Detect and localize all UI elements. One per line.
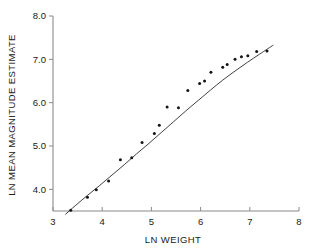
- data-point: [119, 158, 122, 161]
- data-point-group: [69, 50, 268, 212]
- data-point: [95, 188, 98, 191]
- y-axis-tick-labels: 4.05.06.07.08.0: [33, 10, 46, 194]
- data-point: [141, 141, 144, 144]
- data-point: [86, 196, 89, 199]
- x-tick-label: 5: [149, 216, 154, 227]
- x-axis-group: 345678: [50, 207, 301, 227]
- data-point: [234, 58, 237, 61]
- data-point: [69, 209, 72, 212]
- data-point: [203, 80, 206, 83]
- data-point: [209, 71, 212, 74]
- x-axis-ticks: [53, 207, 299, 211]
- y-axis-ticks: [49, 16, 53, 189]
- x-tick-label: 7: [247, 216, 252, 227]
- data-point: [266, 50, 269, 53]
- chart-canvas: 4.05.06.07.08.0 345678 LN WEIGHT LN MEAN…: [0, 0, 311, 250]
- data-point: [130, 156, 133, 159]
- y-tick-label: 7.0: [33, 54, 46, 65]
- data-point: [198, 82, 201, 85]
- y-tick-label: 4.0: [33, 184, 46, 195]
- data-point: [177, 106, 180, 109]
- y-axis-group: 4.05.06.07.08.0: [33, 10, 53, 211]
- data-point: [186, 89, 189, 92]
- data-point: [246, 54, 249, 57]
- data-point: [226, 63, 229, 66]
- y-axis-title: LN MEAN MAGNITUDE ESTIMATE: [6, 34, 17, 196]
- data-point: [221, 66, 224, 69]
- x-tick-label: 4: [100, 216, 105, 227]
- data-point: [107, 180, 110, 183]
- data-point: [240, 55, 243, 58]
- data-point: [153, 132, 156, 135]
- data-point: [158, 124, 161, 127]
- x-tick-label: 3: [50, 216, 55, 227]
- x-tick-label: 8: [296, 216, 301, 227]
- data-point: [255, 50, 258, 53]
- x-axis-title: LN WEIGHT: [145, 234, 201, 245]
- data-point: [166, 106, 169, 109]
- y-tick-label: 8.0: [33, 10, 46, 21]
- scatter-plot-figure: 4.05.06.07.08.0 345678 LN WEIGHT LN MEAN…: [0, 0, 311, 250]
- y-tick-label: 6.0: [33, 97, 46, 108]
- y-tick-label: 5.0: [33, 140, 46, 151]
- x-tick-label: 6: [198, 216, 203, 227]
- x-axis-tick-labels: 345678: [50, 216, 301, 227]
